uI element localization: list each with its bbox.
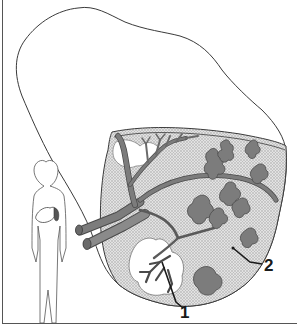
liver-diagram bbox=[0, 0, 297, 336]
label-2: 2 bbox=[264, 257, 273, 274]
label-1: 1 bbox=[180, 304, 189, 321]
human-silhouette bbox=[32, 160, 66, 323]
leader-dot-2 bbox=[232, 247, 235, 250]
vessel-cap-upper bbox=[76, 225, 83, 235]
vessel-cap-lower bbox=[83, 239, 91, 250]
